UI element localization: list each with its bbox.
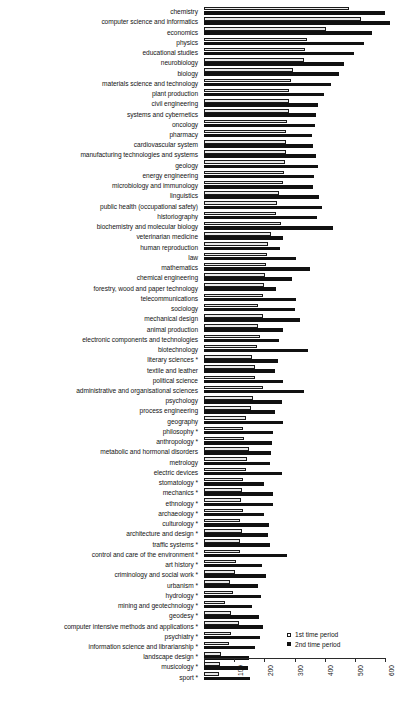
bar-second-period — [204, 625, 263, 629]
axis-tick-label: 200 — [267, 665, 274, 676]
chart-row: human reproduction — [0, 242, 401, 252]
bar-first-period — [204, 652, 221, 656]
chart-row: civil engineering — [0, 98, 401, 108]
bar-first-period — [204, 396, 253, 400]
axis-tick — [295, 658, 296, 662]
bar-second-period — [204, 308, 295, 312]
bar-second-period — [204, 421, 283, 425]
category-label: urbanism * — [167, 581, 198, 588]
bar-first-period — [204, 273, 265, 277]
chart-legend: 1st time period2nd time period — [287, 630, 340, 649]
axis-tick — [264, 658, 265, 662]
chart-row: literary sciences * — [0, 354, 401, 364]
category-label: neurobiology — [161, 59, 198, 66]
chart-row: philosophy * — [0, 426, 401, 436]
category-label: anthropology * — [156, 438, 198, 445]
bar-first-period — [204, 570, 235, 574]
category-label: mechanical design — [144, 315, 198, 322]
category-label: animal production — [147, 325, 198, 332]
bar-second-period — [204, 369, 275, 373]
category-label: cardiovascular system — [134, 141, 198, 148]
bar-second-period — [204, 636, 260, 640]
bar-first-period — [204, 621, 239, 625]
category-label: electric devices — [154, 468, 198, 475]
bar-first-period — [204, 386, 263, 390]
bar-second-period — [204, 11, 385, 15]
category-label: biology — [177, 69, 198, 76]
bar-second-period — [204, 226, 333, 230]
bar-first-period — [204, 160, 285, 164]
bar-second-period — [204, 247, 280, 251]
bar-second-period — [204, 257, 296, 261]
bar-first-period — [204, 232, 271, 236]
category-label: public health (occupational safety) — [100, 202, 198, 209]
bar-first-period — [204, 48, 305, 52]
axis-tick — [385, 658, 386, 662]
bar-first-period — [204, 140, 286, 144]
bar-second-period — [204, 574, 266, 578]
bar-second-period — [204, 513, 264, 517]
category-label: economics — [167, 28, 198, 35]
axis-tick-label: 500 — [357, 665, 364, 676]
bar-second-period — [204, 206, 322, 210]
category-label: energy engineering — [142, 171, 198, 178]
axis-tick-label: 0 — [206, 665, 213, 669]
bar-second-period — [204, 165, 318, 169]
category-label: architecture and design * — [126, 530, 198, 537]
bar-second-period — [204, 339, 279, 343]
axis-tick-label: 100 — [237, 665, 244, 676]
chart-row: textile and leather — [0, 364, 401, 374]
axis-tick — [204, 658, 205, 662]
bar-second-period — [204, 185, 313, 189]
chart-row: metrology — [0, 457, 401, 467]
category-label: mechanics * — [163, 489, 198, 496]
bar-first-period — [204, 17, 361, 21]
category-label: metrology — [169, 458, 198, 465]
chart-row: anthropology * — [0, 436, 401, 446]
chart-row: educational studies — [0, 47, 401, 57]
chart-row: mining and geotechnology * — [0, 600, 401, 610]
chart-row: geography — [0, 416, 401, 426]
chart-row: public health (occupational safety) — [0, 201, 401, 211]
category-label: computer intensive methods and applicati… — [64, 622, 198, 629]
chart-row: economics — [0, 26, 401, 36]
bar-first-period — [204, 212, 276, 216]
bar-first-period — [204, 406, 251, 410]
chart-row: psychology — [0, 395, 401, 405]
chart-row: criminology and social work * — [0, 569, 401, 579]
bar-first-period — [204, 324, 258, 328]
chart-row: chemistry — [0, 6, 401, 16]
bar-second-period — [204, 595, 261, 599]
category-label: ethnology * — [166, 499, 198, 506]
chart-row: sociology — [0, 303, 401, 313]
bar-second-period — [204, 431, 273, 435]
chart-row: administrative and organisational scienc… — [0, 385, 401, 395]
bar-first-period — [204, 79, 291, 83]
bar-second-period — [204, 410, 275, 414]
category-label: pharmacy — [169, 130, 198, 137]
chart-row: traffic systems * — [0, 538, 401, 548]
legend-swatch-open-icon — [287, 633, 291, 637]
bar-second-period — [204, 472, 282, 476]
chart-row: manufacturing technologies and systems — [0, 149, 401, 159]
chart-row: telecommunications — [0, 293, 401, 303]
horizontal-bar-chart: chemistrycomputer science and informatic… — [0, 0, 401, 702]
bar-second-period — [204, 523, 269, 527]
chart-row: biology — [0, 67, 401, 77]
chart-row: materials science and technology — [0, 78, 401, 88]
category-label: law — [188, 253, 198, 260]
category-label: historiography — [157, 212, 198, 219]
category-label: traffic systems * — [152, 540, 198, 547]
bar-first-period — [204, 416, 246, 420]
chart-row: forestry, wood and paper technology — [0, 282, 401, 292]
bar-second-period — [204, 646, 255, 650]
bar-first-period — [204, 38, 307, 42]
bar-first-period — [204, 109, 289, 113]
bar-first-period — [204, 437, 244, 441]
chart-row: chemical engineering — [0, 272, 401, 282]
legend-item: 1st time period — [287, 630, 340, 640]
chart-row: archaeology * — [0, 508, 401, 518]
category-label: metabolic and hormonal disorders — [100, 448, 198, 455]
chart-row: law — [0, 252, 401, 262]
category-label: art history * — [165, 561, 198, 568]
